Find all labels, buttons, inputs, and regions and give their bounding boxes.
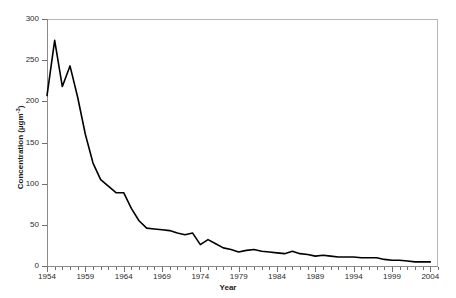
y-axis-title-text: Concentration (µgm (16, 113, 25, 189)
line-series-svg (0, 0, 456, 298)
y-axis-title-tail: ) (16, 105, 25, 108)
y-axis-title: Concentration (µgm-3) (15, 67, 26, 227)
concentration-line (47, 40, 430, 261)
x-axis-title: Year (0, 283, 456, 292)
chart-figure: 050100150200250300 195419591964196919741… (0, 0, 456, 298)
y-axis-title-exponent: -3 (15, 108, 21, 113)
